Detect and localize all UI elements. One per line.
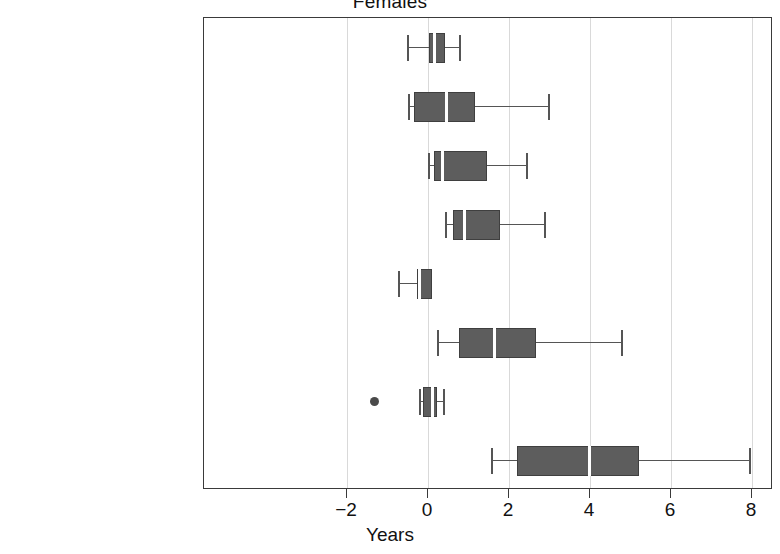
box-iqr: [429, 33, 445, 63]
whisker-low-cap: [398, 271, 400, 297]
x-tick-label: 8: [721, 499, 780, 521]
whisker-high-cap: [548, 94, 550, 120]
whisker-high-cap: [749, 448, 751, 474]
x-tick-mark: [670, 489, 671, 498]
whisker-high-cap: [443, 389, 445, 415]
box-iqr: [517, 446, 639, 476]
whisker-high-line: [500, 224, 544, 226]
whisker-low-line: [407, 47, 429, 49]
whisker-low-cap: [407, 35, 409, 61]
x-tick-mark: [508, 489, 509, 498]
whisker-high-cap: [459, 35, 461, 61]
whisker-high-line: [536, 342, 621, 344]
plot-area: [203, 17, 772, 489]
whisker-low-line: [437, 342, 459, 344]
gridline-8: [752, 18, 753, 488]
whisker-high-line: [639, 460, 749, 462]
gridline-4: [590, 18, 591, 488]
whisker-low-cap: [437, 330, 439, 356]
x-tick-label: 6: [640, 499, 700, 521]
whisker-high-line: [475, 106, 548, 108]
whisker-high-cap: [526, 153, 528, 179]
median-line: [493, 328, 496, 358]
x-tick-mark: [751, 489, 752, 498]
median-line: [431, 387, 434, 417]
x-axis-title: Years: [0, 524, 780, 546]
whisker-low-cap: [408, 94, 410, 120]
x-tick-mark: [346, 489, 347, 498]
whisker-high-line: [487, 165, 526, 167]
whisker-low-line: [491, 460, 517, 462]
median-line: [445, 92, 448, 122]
whisker-low-cap: [428, 153, 430, 179]
gridline-2: [509, 18, 510, 488]
median-line: [441, 151, 444, 181]
median-line: [433, 33, 436, 63]
x-tick-label: −2: [316, 499, 376, 521]
whisker-low-cap: [419, 389, 421, 415]
chart-title: Females: [0, 0, 780, 13]
box-iqr: [453, 210, 500, 240]
median-line: [588, 446, 591, 476]
x-tick-label: 0: [397, 499, 457, 521]
median-line: [418, 269, 421, 299]
gridline-neg2: [347, 18, 348, 488]
x-tick-label: 2: [478, 499, 538, 521]
x-tick-label: 4: [559, 499, 619, 521]
boxplot-chart: Females NeoplasmsCirculatory DiseasesRes…: [0, 0, 780, 554]
whisker-low-cap: [491, 448, 493, 474]
gridline-0: [428, 18, 429, 488]
gridline-6: [671, 18, 672, 488]
x-tick-mark: [589, 489, 590, 498]
whisker-low-line: [398, 283, 417, 285]
box-iqr: [459, 328, 536, 358]
whisker-low-cap: [445, 212, 447, 238]
median-line: [463, 210, 466, 240]
outlier-point: [370, 397, 379, 406]
whisker-high-cap: [544, 212, 546, 238]
x-tick-mark: [427, 489, 428, 498]
whisker-high-cap: [621, 330, 623, 356]
whisker-high-line: [445, 47, 459, 49]
